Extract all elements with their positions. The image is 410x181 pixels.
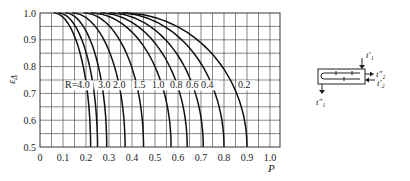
curve-label-r-2_0: 2.0 [113,79,126,90]
x-axis-title: P [267,162,275,174]
exchanger-shell [318,69,365,84]
x-tick-label: 0.1 [57,152,70,163]
x-tick-label: 0.9 [241,152,254,163]
y-tick-label: 0.9 [24,34,37,45]
curve-label-r-1_5: 1.5 [133,79,146,90]
x-tick-label: 0.3 [103,152,116,163]
curve-label-r-0_4: 0.4 [201,79,214,90]
curve-labels: R=4.03.02.01.51.00.80.60.40.2 [64,79,256,90]
x-tick-label: 0.4 [126,152,139,163]
curve-label-r-4_0: R=4.0 [65,79,90,90]
curve-label-r-1_0: 1.0 [152,79,165,90]
x-tick-label: 0.8 [218,152,231,163]
y-tick-labels: 0.50.60.70.80.91.0 [24,8,37,153]
x-tick-label: 0.7 [195,152,208,163]
x-tick-label: 0.2 [80,152,93,163]
chart-figure: 00.10.20.30.40.50.60.70.80.91.0 0.50.60.… [0,0,410,181]
arrow-left-icon [365,78,369,83]
y-tick-label: 0.6 [24,115,37,126]
y-tick-label: 0.7 [24,88,37,99]
label-t2-in: t′₂ [377,78,385,88]
arrow-right-icon [370,72,374,77]
y-tick-label: 1.0 [24,8,37,19]
label-t1-out: t″₁ [316,97,325,107]
arrow-down-icon [359,65,365,69]
u-tube [321,73,360,79]
y-axis-title: εΔ [5,75,19,84]
label-t1-in: t′₁ [366,50,374,60]
x-tick-labels: 00.10.20.30.40.50.60.70.80.91.0 [38,152,277,163]
x-tick-label: 0.6 [172,152,185,163]
curve-label-r-3_0: 3.0 [98,79,111,90]
y-tick-label: 0.8 [24,61,37,72]
arrow-down-icon [319,90,325,94]
x-tick-label: 0 [38,152,43,163]
curve-label-r-0_8: 0.8 [170,79,183,90]
curve-label-r-0_2: 0.2 [238,79,251,90]
x-tick-label: 0.5 [149,152,162,163]
flow-diagram: t′₁ t″₂ t′₂ t″₁ [316,50,385,107]
curve-label-r-0_6: 0.6 [186,79,199,90]
y-tick-label: 0.5 [24,142,37,153]
